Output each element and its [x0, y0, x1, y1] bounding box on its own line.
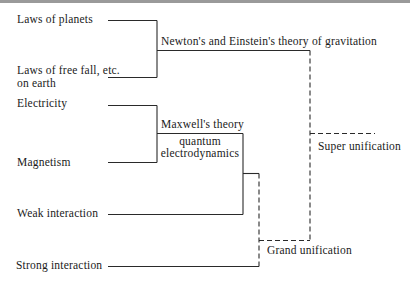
gravitation-bracket [108, 21, 310, 78]
leaf-magnetism: Magnetism [17, 156, 71, 169]
leaf-weak-interaction: Weak interaction [17, 207, 98, 220]
leaf-laws-of-planets: Laws of planets [17, 13, 93, 26]
node-qed-label-line2: electrodynamics [158, 147, 242, 160]
leaf-strong-interaction: Strong interaction [16, 259, 102, 272]
leaf-laws-of-free-fall-line2: on earth [17, 77, 56, 90]
node-super-unification-label: Super unification [318, 140, 401, 153]
node-maxwell-label: Maxwell's theory [161, 118, 244, 131]
leaf-electricity: Electricity [17, 97, 67, 110]
node-gravitation-label: Newton's and Einstein's theory of gravit… [161, 35, 377, 48]
leaf-laws-of-free-fall: Laws of free fall, etc. [17, 64, 120, 77]
node-grand-unification-label: Grand unification [267, 244, 352, 257]
